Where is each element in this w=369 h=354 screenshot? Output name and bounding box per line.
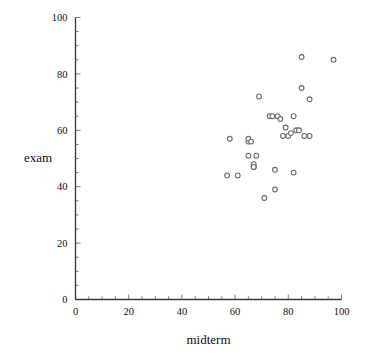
y-tick-label: 60 (57, 125, 68, 136)
data-point (262, 196, 267, 201)
data-point (291, 114, 296, 119)
data-point (249, 139, 254, 144)
x-tick-label: 0 (73, 306, 78, 317)
y-tick-label: 80 (57, 69, 68, 80)
x-tick-label: 20 (123, 306, 134, 317)
data-point (278, 117, 283, 122)
data-point (251, 165, 256, 170)
data-point (273, 167, 278, 172)
data-point (302, 134, 307, 139)
x-tick-label: 100 (334, 306, 350, 317)
data-point (307, 97, 312, 102)
data-point (331, 57, 336, 62)
y-tick-label: 40 (57, 181, 68, 192)
data-point (257, 94, 262, 99)
data-point (297, 128, 302, 133)
data-point (299, 55, 304, 60)
data-point (283, 125, 288, 130)
data-point (299, 86, 304, 91)
x-axis-title: midterm (186, 332, 230, 347)
data-point (270, 114, 275, 119)
data-point (289, 131, 294, 136)
x-tick-label: 60 (230, 306, 241, 317)
data-point (254, 153, 259, 158)
x-tick-label: 40 (177, 306, 188, 317)
data-point (273, 187, 278, 192)
data-point (246, 153, 251, 158)
data-point (225, 173, 230, 178)
y-axis-title: exam (24, 150, 52, 165)
data-point (307, 134, 312, 139)
data-point (281, 134, 286, 139)
plot-canvas: 020406080100020406080100midtermexam (0, 0, 369, 354)
scatter-plot-figure: 020406080100020406080100midtermexam (0, 0, 369, 354)
y-tick-label: 100 (52, 12, 68, 23)
y-tick-label: 0 (62, 294, 67, 305)
y-tick-label: 20 (57, 238, 68, 249)
data-point (235, 173, 240, 178)
data-point (291, 170, 296, 175)
data-point (227, 136, 232, 141)
x-tick-label: 80 (283, 306, 294, 317)
